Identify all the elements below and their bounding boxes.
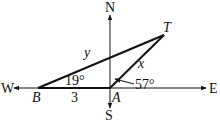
triangle-compass-diagram: N S E W B A T 3 x y 19° 57° bbox=[0, 0, 220, 122]
point-b-label: B bbox=[32, 90, 41, 105]
compass-west-label: W bbox=[1, 81, 15, 96]
side-ba-label: 3 bbox=[71, 90, 78, 105]
diagram-canvas: N S E W B A T 3 x y 19° 57° bbox=[0, 0, 220, 122]
compass-north-label: N bbox=[105, 0, 115, 15]
angle-b-label: 19° bbox=[65, 73, 85, 88]
point-t-label: T bbox=[163, 20, 172, 35]
side-at-label: x bbox=[137, 56, 145, 71]
side-bt-label: y bbox=[82, 45, 91, 60]
angle-a-label: 57° bbox=[135, 77, 155, 92]
point-a-label: A bbox=[111, 90, 121, 105]
compass-south-label: S bbox=[105, 108, 113, 122]
compass-east-label: E bbox=[209, 81, 218, 96]
